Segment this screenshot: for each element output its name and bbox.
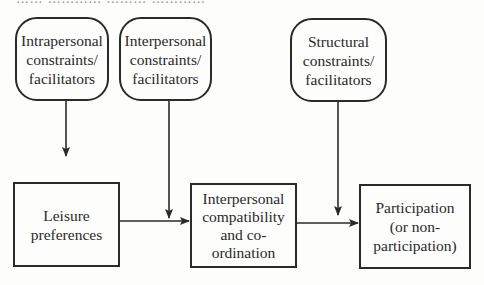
interpersonal-constraints-label: Interpersonal constraints/ facilitators (125, 31, 207, 88)
interpersonal-constraints-node: Interpersonal constraints/ facilitators (119, 17, 212, 101)
intrapersonal-constraints-node: Intrapersonal constraints/ facilitators (15, 17, 109, 101)
structural-constraints-label: Structural constraints/ facilitators (303, 32, 374, 89)
leisure-preferences-label: Leisure preferences (31, 206, 102, 244)
interpersonal-compatibility-label: Interpersonal compatibility and co- ordi… (202, 190, 285, 262)
participation-node: Participation (or non- participation) (359, 184, 471, 269)
leisure-preferences-node: Leisure preferences (13, 182, 120, 267)
participation-label: Participation (or non- participation) (373, 198, 457, 255)
structural-constraints-node: Structural constraints/ facilitators (290, 18, 387, 102)
interpersonal-compatibility-node: Interpersonal compatibility and co- ordi… (190, 183, 297, 268)
intrapersonal-constraints-label: Intrapersonal constraints/ facilitators (21, 31, 103, 88)
